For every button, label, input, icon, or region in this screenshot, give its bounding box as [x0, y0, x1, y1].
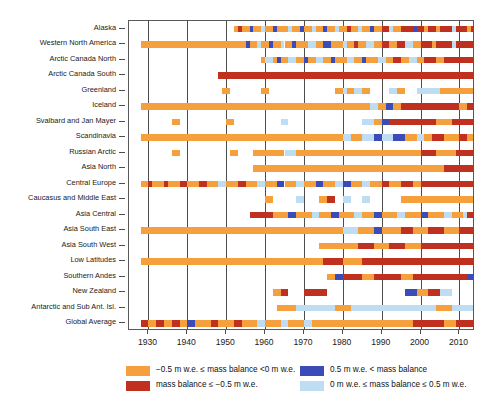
bar-segment-orange — [401, 274, 413, 281]
bar-segment-orange — [444, 227, 460, 234]
bar-segment-dark_blue — [374, 227, 382, 234]
bar-segment-orange — [343, 258, 362, 265]
x-tick-2010 — [458, 330, 459, 334]
bar-segment-light_blue — [370, 103, 378, 110]
bar-segment-dark_blue — [405, 289, 417, 296]
y-axis-label-asia-south-west: Asia South West — [62, 241, 117, 248]
bar-row — [129, 165, 473, 172]
y-tick-8 — [119, 152, 125, 153]
bar-segment-orange — [319, 243, 342, 250]
bar-segment-light_blue — [413, 305, 436, 312]
bar-segment-light_blue — [397, 212, 405, 219]
bar-segment-dark_red — [358, 243, 374, 250]
bar-segment-orange — [253, 150, 284, 157]
plot-area — [128, 20, 474, 330]
x-tick-label-1930: 1930 — [138, 337, 157, 347]
bar-segment-orange — [347, 88, 355, 95]
bar-segment-dark_blue — [467, 274, 474, 281]
bar-row — [129, 196, 473, 203]
bar-segment-dark_red — [432, 320, 444, 327]
bar-row — [129, 227, 473, 234]
bar-segment-dark_red — [180, 181, 188, 188]
bar-segment-dark_red — [459, 258, 474, 265]
bar-segment-dark_red — [452, 181, 464, 188]
x-tick-label-1970: 1970 — [293, 337, 312, 347]
y-axis-label-scandinavia: Scandinavia — [76, 133, 116, 140]
bar-segment-orange — [362, 150, 401, 157]
bar-segment-orange — [296, 57, 304, 64]
bar-segment-orange — [444, 134, 460, 141]
bar-segment-dark_red — [452, 57, 460, 64]
bar-segment-dark_blue — [288, 212, 296, 219]
bar-segment-dark_red — [401, 103, 413, 110]
bar-row — [129, 119, 473, 126]
y-tick-6 — [119, 121, 125, 122]
bar-segment-dark_red — [413, 103, 429, 110]
bar-segment-dark_red — [393, 57, 401, 64]
bar-segment-dark_red — [405, 72, 474, 79]
bar-segment-orange — [436, 150, 455, 157]
bar-segment-dark_red — [463, 119, 474, 126]
y-tick-0 — [119, 28, 125, 29]
bar-segment-light_blue — [409, 57, 417, 64]
bar-segment-dark_blue — [343, 181, 351, 188]
bar-segment-dark_red — [401, 181, 413, 188]
bar-segment-dark_red — [456, 41, 468, 48]
bar-segment-orange — [164, 320, 172, 327]
bar-segment-orange — [218, 320, 234, 327]
bar-segment-orange — [327, 26, 335, 33]
bar-segment-orange — [246, 181, 258, 188]
bar-segment-orange — [277, 305, 296, 312]
bar-segment-orange — [401, 150, 420, 157]
bar-segment-light_blue — [281, 320, 289, 327]
bar-segment-orange — [335, 88, 343, 95]
gridline-2010 — [459, 21, 460, 329]
bar-segment-orange — [141, 41, 207, 48]
bar-segment-orange — [261, 41, 269, 48]
gridline-1980 — [343, 21, 344, 329]
bar-segment-dark_red — [389, 274, 401, 281]
bar-segment-dark_red — [417, 26, 425, 33]
y-tick-11 — [119, 198, 125, 199]
bar-segment-light_blue — [382, 134, 394, 141]
y-tick-12 — [119, 214, 125, 215]
bar-segment-orange — [250, 41, 258, 48]
bar-segment-dark_red — [362, 258, 389, 265]
bar-segment-dark_red — [382, 41, 390, 48]
bar-segment-orange — [230, 150, 238, 157]
bar-segment-orange — [374, 26, 382, 33]
bar-row — [129, 134, 473, 141]
bar-segment-orange — [452, 212, 464, 219]
bar-segment-light_blue — [316, 57, 324, 64]
bar-segment-light_blue — [362, 181, 370, 188]
bar-segment-dark_red — [428, 227, 444, 234]
bar-segment-dark_red — [413, 320, 432, 327]
y-tick-10 — [119, 183, 125, 184]
bar-segment-orange — [389, 181, 401, 188]
bar-segment-light_blue — [312, 212, 320, 219]
bar-segment-orange — [428, 212, 444, 219]
x-tick-label-2000: 2000 — [410, 337, 429, 347]
bar-segment-dark_blue — [382, 119, 390, 126]
bar-segment-orange — [265, 181, 277, 188]
bar-segment-light_blue — [366, 41, 374, 48]
legend-item-orange: −0.5 m w.e. ≤ mass balance <0 m w.e. — [126, 364, 295, 377]
x-tick-label-1980: 1980 — [332, 337, 351, 347]
bar-segment-orange — [444, 196, 474, 203]
bar-segment-orange — [273, 289, 281, 296]
bar-segment-orange — [253, 26, 261, 33]
bar-segment-dark_red — [304, 289, 327, 296]
bar-segment-orange — [296, 212, 312, 219]
bar-segment-orange — [296, 150, 343, 157]
bar-segment-light_blue — [440, 289, 452, 296]
legend-label-dark_red: mass balance ≤ −0.5 m w.e. — [156, 381, 258, 389]
y-axis-label-new-zealand: New Zealand — [72, 288, 116, 295]
bar-row — [129, 258, 473, 265]
bar-segment-dark_red — [428, 289, 440, 296]
bar-segment-orange — [242, 26, 250, 33]
bar-segment-orange — [405, 134, 417, 141]
bar-segment-orange — [347, 41, 355, 48]
bar-segment-orange — [323, 165, 342, 172]
bar-segment-orange — [141, 103, 370, 110]
bar-segment-dark_red — [432, 274, 451, 281]
